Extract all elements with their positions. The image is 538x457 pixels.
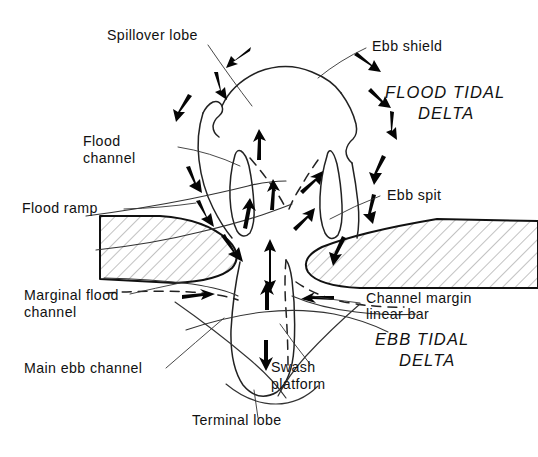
- label-flood-ramp: Flood ramp: [22, 200, 98, 216]
- label-channel-margin-line2: linear bar: [366, 306, 429, 322]
- tidal-inlet-diagram: Spillover lobe Ebb shield Flood channel …: [0, 0, 538, 457]
- label-ebb-shield: Ebb shield: [372, 38, 442, 54]
- label-marginal-flood-line1: Marginal flood: [24, 287, 119, 303]
- label-swash-line2: platform: [271, 376, 325, 392]
- label-terminal-lobe: Terminal lobe: [192, 412, 282, 428]
- label-channel-margin-line1: Channel margin: [366, 290, 472, 306]
- region-ebb-tidal-delta-line1: EBB TIDAL: [375, 330, 469, 348]
- region-flood-tidal-delta-line2: DELTA: [418, 104, 474, 122]
- label-marginal-flood-line2: channel: [24, 304, 77, 320]
- region-ebb-tidal-delta-line2: DELTA: [399, 351, 455, 369]
- label-flood-channel-line1: Flood: [83, 133, 121, 149]
- label-ebb-spit: Ebb spit: [387, 187, 441, 203]
- region-flood-tidal-delta-line1: FLOOD TIDAL: [385, 83, 505, 101]
- label-spillover-lobe: Spillover lobe: [107, 27, 198, 43]
- label-flood-channel-line2: channel: [83, 150, 136, 166]
- label-main-ebb-channel: Main ebb channel: [24, 360, 142, 376]
- label-swash-line1: Swash: [271, 359, 316, 375]
